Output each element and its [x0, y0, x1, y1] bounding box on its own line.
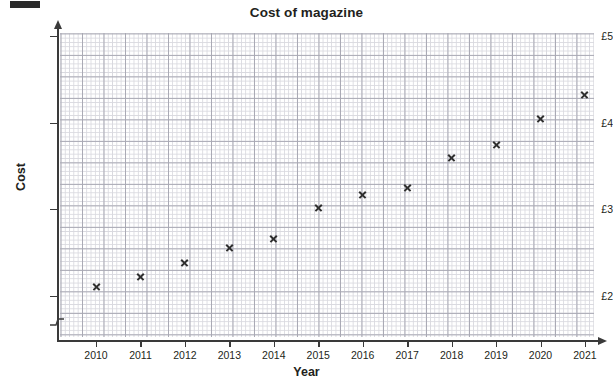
x-axis-tick-label: 2020	[519, 349, 563, 361]
x-axis-tick	[496, 341, 497, 347]
x-axis-tick	[407, 341, 408, 347]
x-axis-tick-label: 2010	[74, 349, 118, 361]
y-axis-line	[57, 28, 59, 341]
y-axis-tick	[50, 296, 58, 297]
data-point-marker	[447, 153, 456, 162]
data-point-marker	[358, 190, 367, 199]
data-point-marker	[580, 90, 589, 99]
x-axis-tick-label: 2015	[296, 349, 340, 361]
data-point-marker	[136, 272, 145, 281]
data-point-marker	[403, 183, 412, 192]
y-axis-title: Cost	[14, 147, 28, 207]
x-axis-tick-label: 2018	[430, 349, 474, 361]
x-axis-tick	[585, 341, 586, 347]
y-axis-tick-label: £3	[565, 203, 613, 215]
y-axis-tick	[50, 36, 58, 37]
x-axis-tick	[363, 341, 364, 347]
data-point-marker	[536, 114, 545, 123]
x-axis-tick	[140, 341, 141, 347]
x-axis-title: Year	[0, 365, 613, 379]
arrow-up-icon	[54, 20, 62, 29]
y-axis-tick-label: £2	[565, 290, 613, 302]
major-gridlines	[60, 33, 594, 337]
x-axis-tick-label: 2016	[341, 349, 385, 361]
y-axis-tick-label: £5	[565, 30, 613, 42]
x-axis-tick	[318, 341, 319, 347]
y-axis-tick	[50, 209, 58, 210]
x-axis-tick	[452, 341, 453, 347]
x-axis-tick	[96, 341, 97, 347]
arrow-right-icon	[598, 337, 607, 345]
x-axis-tick-label: 2017	[385, 349, 429, 361]
x-axis-tick-label: 2014	[252, 349, 296, 361]
y-axis-tick-label: £4	[565, 117, 613, 129]
x-axis-tick-label: 2012	[163, 349, 207, 361]
data-point-marker	[314, 203, 323, 212]
chart-title: Cost of magazine	[0, 5, 613, 20]
axis-break-icon	[49, 316, 65, 329]
data-point-marker	[92, 282, 101, 291]
x-axis-tick	[229, 341, 230, 347]
data-point-marker	[225, 243, 234, 252]
x-axis-tick	[541, 341, 542, 347]
plot-area	[60, 33, 594, 337]
data-point-marker	[492, 140, 501, 149]
data-point-marker	[269, 234, 278, 243]
x-axis-tick-label: 2013	[207, 349, 251, 361]
y-axis-tick	[50, 123, 58, 124]
x-axis-tick-label: 2021	[563, 349, 607, 361]
x-axis-line	[57, 340, 600, 342]
x-axis-tick	[185, 341, 186, 347]
data-point-marker	[180, 258, 189, 267]
x-axis-tick	[274, 341, 275, 347]
x-axis-tick-label: 2019	[474, 349, 518, 361]
x-axis-tick-label: 2011	[118, 349, 162, 361]
